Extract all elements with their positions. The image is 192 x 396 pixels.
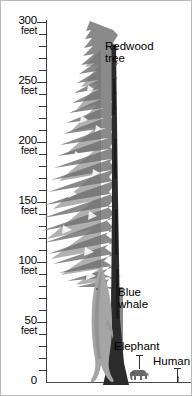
blue-whale-illustration	[87, 267, 117, 383]
axis-label-250-unit: feet	[3, 86, 37, 97]
blue-whale-label: Blue whale	[118, 287, 148, 310]
axis-label-200-value: 200	[3, 135, 37, 146]
human-illustration	[172, 367, 184, 383]
axis-label-250: 250 feet	[3, 75, 37, 96]
axis-label-150-value: 150	[3, 195, 37, 206]
scale-comparison-figure: 300 feet 250 feet 200 feet 150 feet 100 …	[0, 0, 192, 396]
redwood-tree-label: Redwood tree	[105, 41, 154, 64]
axis-label-100-value: 100	[3, 255, 37, 266]
blue-whale-label-line1: Blue	[118, 287, 148, 299]
human-leader-cap	[174, 368, 181, 369]
blue-whale-label-line2: whale	[118, 299, 148, 311]
axis-label-150-unit: feet	[3, 206, 37, 217]
redwood-tree-label-line1: Redwood	[105, 41, 154, 53]
human-leader-line	[177, 369, 178, 382]
y-axis-labels: 300 feet 250 feet 200 feet 150 feet 100 …	[1, 1, 37, 396]
axis-label-100: 100 feet	[3, 255, 37, 276]
axis-label-0: 0	[3, 375, 37, 386]
elephant-illustration	[128, 367, 150, 383]
axis-label-150: 150 feet	[3, 195, 37, 216]
axis-label-250-value: 250	[3, 75, 37, 86]
axis-label-300-value: 300	[3, 15, 37, 26]
axis-label-50-value: 50	[3, 315, 37, 326]
axis-label-50: 50 feet	[3, 315, 37, 336]
human-label: Human	[153, 356, 190, 368]
redwood-tree-label-line2: tree	[105, 53, 154, 65]
axis-label-200-unit: feet	[3, 146, 37, 157]
elephant-label: Elephant	[114, 341, 159, 353]
axis-label-300: 300 feet	[3, 15, 37, 36]
axis-label-300-unit: feet	[3, 26, 37, 37]
axis-label-200: 200 feet	[3, 135, 37, 156]
axis-label-100-unit: feet	[3, 266, 37, 277]
axis-label-0-value: 0	[3, 375, 37, 386]
elephant-leader-line	[139, 355, 140, 369]
elephant-leader-cap	[136, 355, 143, 356]
axis-label-50-unit: feet	[3, 326, 37, 337]
